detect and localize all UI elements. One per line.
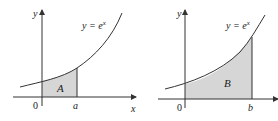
origin-label: 0	[177, 102, 182, 113]
origin-label: 0	[33, 100, 38, 111]
figure: y x 0 a A y = ex y 0 b B y = ex	[0, 0, 278, 121]
bound-label: b	[248, 102, 253, 113]
region-label: B	[224, 77, 231, 89]
x-axis-label: x	[130, 103, 136, 114]
y-axis-label: y	[32, 8, 38, 19]
left-graph: y x 0 a A y = ex	[13, 8, 136, 114]
y-axis-label: y	[176, 8, 182, 19]
right-graph: y 0 b B y = ex	[158, 8, 278, 113]
region-label: A	[56, 82, 64, 94]
curve-label: y = ex	[81, 19, 107, 31]
curve-label: y = ex	[225, 19, 251, 31]
bound-label: a	[73, 100, 78, 111]
